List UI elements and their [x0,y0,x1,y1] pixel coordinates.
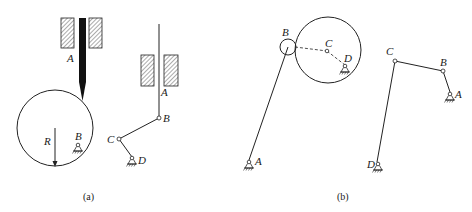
joint-c [393,59,397,63]
joint-b [441,69,445,73]
label-a: A [454,88,462,100]
center-c [325,49,329,53]
caption-b: (b) [337,191,349,203]
label-c: C [107,133,115,145]
label-c: C [325,37,333,49]
pivot-support-a [244,160,255,170]
joint-c [117,137,121,141]
pivot-support-a [445,92,456,102]
pivot-support-b [73,143,84,153]
figure-b-left-cam: B C D A [244,17,362,171]
label-d: D [343,52,352,64]
label-c: C [386,45,394,57]
guide-block-right [89,18,102,48]
label-d: D [137,154,146,166]
guide-block-left [61,18,74,48]
label-b: B [163,112,170,124]
caption-a: (a) [83,191,94,203]
figure-a-left-cam: A R B [17,18,102,167]
label-a: A [160,86,168,98]
label-d: D [366,158,375,170]
link-bc [119,118,159,139]
joint-b [157,116,161,120]
link-cd [119,139,132,157]
follower-rod [79,18,86,101]
link-ab [249,47,288,160]
mechanism-diagram: A R B A B C D (a) B C D A [0,0,472,212]
guide-block-right [164,55,178,86]
dashed-cd [327,51,345,65]
link-cb [395,61,443,71]
figure-b-right-linkage: C B A D [366,45,462,173]
label-a: A [66,52,74,64]
link-ba [443,71,450,92]
figure-a-right-linkage: A B C D [107,24,178,167]
dashed-bc [295,47,327,51]
guide-block-left [141,55,154,86]
label-b: B [440,56,447,68]
label-b: B [75,130,82,142]
label-r: R [43,135,51,147]
link-cd [377,61,395,162]
pivot-support-d [340,64,351,74]
pivot-support-d [127,156,138,166]
label-a: A [254,155,262,167]
label-b: B [282,26,289,38]
